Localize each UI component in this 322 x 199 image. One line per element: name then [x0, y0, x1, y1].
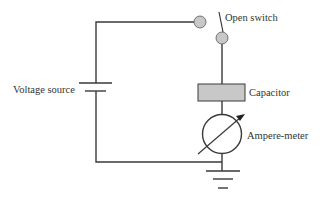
- wire-bottom-left: [96, 91, 222, 162]
- circuit-diagram: Voltage source Open switch Capacitor Amp…: [0, 0, 322, 199]
- capacitor-icon: [198, 84, 245, 101]
- wire-top-left: [96, 22, 194, 83]
- capacitor-label: Capacitor: [249, 87, 290, 98]
- ammeter-icon: [198, 114, 245, 154]
- ammeter-label: Ampere-meter: [247, 130, 309, 141]
- open-switch-icon: [194, 12, 228, 44]
- ground-icon: [206, 171, 240, 188]
- voltage-source-icon: [79, 83, 112, 91]
- voltage-source-label: Voltage source: [13, 84, 75, 95]
- open-switch-label: Open switch: [225, 12, 279, 23]
